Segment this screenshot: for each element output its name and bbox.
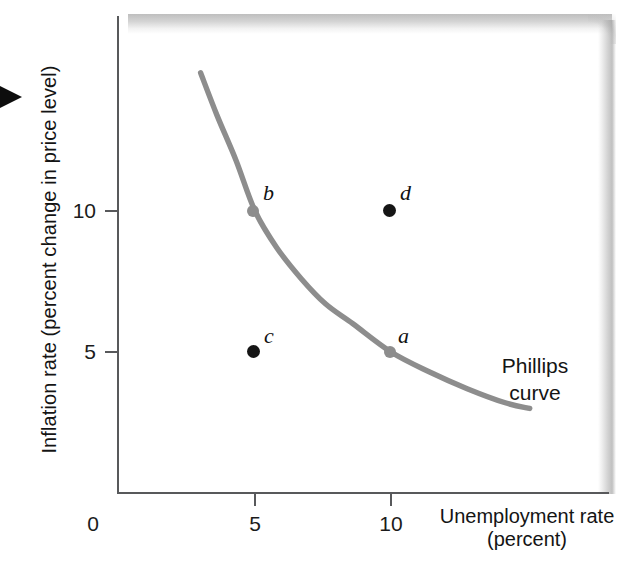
plot-shadow-top (128, 14, 612, 34)
data-point-label-b: b (263, 180, 274, 206)
y-axis-line (117, 16, 119, 494)
y-tick-10 (105, 210, 118, 212)
x-axis-title-line1: Unemployment rate (440, 505, 615, 527)
plot-shadow-right (598, 20, 616, 494)
x-axis-title-line2: (percent) (418, 528, 636, 551)
data-point-b (247, 205, 259, 217)
phillips-curve-figure: 10 5 0 5 10 Inflation rate (percent chan… (0, 0, 640, 567)
curve-annotation-line2: curve (468, 379, 602, 406)
data-point-label-c: c (264, 323, 274, 349)
x-axis-line (117, 492, 609, 494)
x-ticklabel-10: 10 (361, 512, 421, 536)
data-point-d (383, 204, 396, 217)
data-point-a (384, 346, 396, 358)
curve-annotation-line1: Phillips (502, 354, 569, 377)
y-tick-5 (105, 351, 118, 353)
x-tick-10 (390, 493, 392, 506)
curve-annotation: Phillips curve (468, 352, 602, 406)
x-ticklabel-5: 5 (225, 512, 285, 536)
x-ticklabel-0: 0 (63, 512, 123, 536)
x-axis-title: Unemployment rate (percent) (418, 505, 636, 551)
x-tick-5 (254, 493, 256, 506)
data-point-label-a: a (398, 323, 409, 349)
y-axis-title: Inflation rate (percent change in price … (38, 25, 61, 495)
triangle-right-icon (0, 86, 22, 108)
phillips-curve-line (0, 0, 640, 567)
data-point-c (247, 345, 260, 358)
data-point-label-d: d (400, 180, 411, 206)
